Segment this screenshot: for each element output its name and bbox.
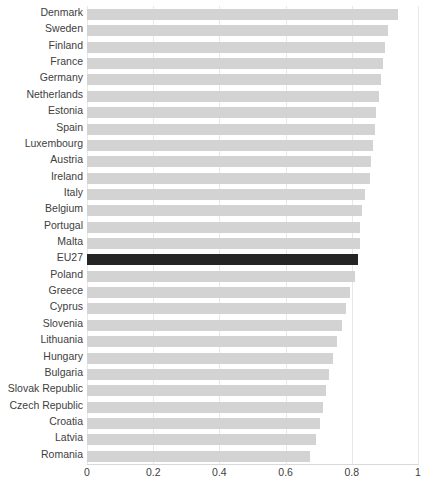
category-label-slot: Bulgaria [0,366,83,382]
bar-row [87,399,418,415]
category-label-slovak-republic: Slovak Republic [1,383,83,394]
bar-greece[interactable] [87,287,350,298]
category-label-slot: Portugal [0,219,83,235]
bar-row [87,268,418,284]
bar-finland[interactable] [87,42,385,53]
category-label-lithuania: Lithuania [1,334,83,345]
bar-bulgaria[interactable] [87,369,329,380]
bar-denmark[interactable] [87,9,398,20]
category-label-portugal: Portugal [1,220,83,231]
bar-cyprus[interactable] [87,303,346,314]
category-label-slovenia: Slovenia [1,318,83,329]
bar-germany[interactable] [87,74,381,85]
x-tick-label-0.6: 0.6 [278,466,293,478]
category-label-slot: Estonia [0,104,83,120]
bar-spain[interactable] [87,124,375,135]
category-label-slot: Malta [0,235,83,251]
gridline-1 [418,6,419,464]
bar-belgium[interactable] [87,205,362,216]
category-label-slot: Czech Republic [0,399,83,415]
category-label-slot: Poland [0,268,83,284]
x-tick-label-0.8: 0.8 [344,466,359,478]
bar-row [87,104,418,120]
bar-netherlands[interactable] [87,91,379,102]
bar-slovak-republic[interactable] [87,385,326,396]
bar-ireland[interactable] [87,173,370,184]
category-label-slot: EU27 [0,251,83,267]
category-label-slot: Ireland [0,170,83,186]
bar-poland[interactable] [87,271,355,282]
category-label-slot: Italy [0,186,83,202]
category-label-bulgaria: Bulgaria [1,367,83,378]
category-label-luxembourg: Luxembourg [1,138,83,149]
bar-lithuania[interactable] [87,336,337,347]
category-label-croatia: Croatia [1,416,83,427]
category-label-slot: Hungary [0,350,83,366]
bar-row [87,186,418,202]
x-tick-label-0.2: 0.2 [146,466,161,478]
bar-row [87,317,418,333]
bar-slovenia[interactable] [87,320,342,331]
bar-eu27[interactable] [87,254,358,265]
x-tick-label-0.4: 0.4 [212,466,227,478]
bar-row [87,284,418,300]
category-label-italy: Italy [1,187,83,198]
bar-row [87,153,418,169]
bar-row [87,121,418,137]
bar-france[interactable] [87,58,383,69]
category-label-denmark: Denmark [1,7,83,18]
bar-row [87,366,418,382]
bar-row [87,448,418,464]
bar-row [87,6,418,22]
x-tick-label-1: 1 [415,466,421,478]
category-label-slot: France [0,55,83,71]
bar-chart: DenmarkSwedenFinlandFranceGermanyNetherl… [0,0,431,497]
category-label-slot: Lithuania [0,333,83,349]
bar-czech-republic[interactable] [87,402,323,413]
bar-croatia[interactable] [87,418,320,429]
bar-latvia[interactable] [87,434,316,445]
category-label-slot: Finland [0,39,83,55]
category-label-greece: Greece [1,285,83,296]
category-label-poland: Poland [1,269,83,280]
category-label-slot: Greece [0,284,83,300]
bar-row [87,22,418,38]
bar-row [87,219,418,235]
category-label-slot: Slovenia [0,317,83,333]
category-axis-labels: DenmarkSwedenFinlandFranceGermanyNetherl… [0,6,83,464]
bar-row [87,137,418,153]
category-label-eu27: EU27 [1,252,83,263]
category-label-sweden: Sweden [1,23,83,34]
category-label-malta: Malta [1,236,83,247]
bar-sweden[interactable] [87,25,388,36]
bar-hungary[interactable] [87,353,333,364]
category-label-slot: Romania [0,448,83,464]
bar-row [87,235,418,251]
category-label-hungary: Hungary [1,351,83,362]
category-label-slot: Spain [0,121,83,137]
category-label-ireland: Ireland [1,171,83,182]
category-label-slot: Sweden [0,22,83,38]
bar-row [87,382,418,398]
bar-italy[interactable] [87,189,365,200]
category-label-france: France [1,56,83,67]
bar-estonia[interactable] [87,107,376,118]
x-axis-tick-labels: 00.20.40.60.81 [0,466,431,486]
bar-row [87,333,418,349]
category-label-czech-republic: Czech Republic [1,400,83,411]
plot-area [87,6,418,464]
category-label-slot: Slovak Republic [0,382,83,398]
category-label-slot: Belgium [0,202,83,218]
bar-portugal[interactable] [87,222,360,233]
bar-row [87,202,418,218]
x-tick-label-0: 0 [84,466,90,478]
category-label-slot: Latvia [0,431,83,447]
bar-row [87,71,418,87]
bar-luxembourg[interactable] [87,140,373,151]
bar-malta[interactable] [87,238,360,249]
bar-romania[interactable] [87,451,310,462]
category-label-spain: Spain [1,122,83,133]
x-axis-line [87,464,419,465]
category-label-netherlands: Netherlands [1,89,83,100]
bar-austria[interactable] [87,156,371,167]
